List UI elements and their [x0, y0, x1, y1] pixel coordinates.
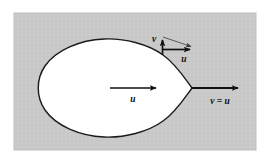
far-field-label: v = u [210, 96, 230, 106]
center-u-label: u [130, 94, 135, 104]
surface-u-label: u [181, 54, 186, 64]
figure-root: u v u v = u [0, 0, 269, 164]
vector-diagram-svg: u v u v = u [0, 0, 269, 164]
